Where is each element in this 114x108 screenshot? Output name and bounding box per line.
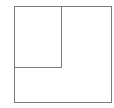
inner-rectangle <box>14 6 62 68</box>
